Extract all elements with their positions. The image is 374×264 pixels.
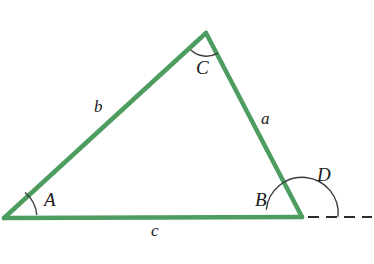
side-label-a: a: [261, 110, 270, 127]
side-b-line: [4, 33, 206, 218]
angle-label-A: A: [44, 190, 56, 209]
side-label-c: c: [151, 222, 159, 239]
geometry-figure: A B C D a b c: [0, 0, 374, 264]
angle-label-D: D: [317, 165, 331, 184]
triangle-diagram-svg: [0, 0, 374, 264]
side-label-b: b: [94, 98, 103, 115]
side-a-line: [206, 33, 302, 217]
angle-label-C: C: [196, 58, 209, 77]
angle-label-B: B: [255, 190, 267, 209]
side-c-line: [4, 217, 302, 218]
